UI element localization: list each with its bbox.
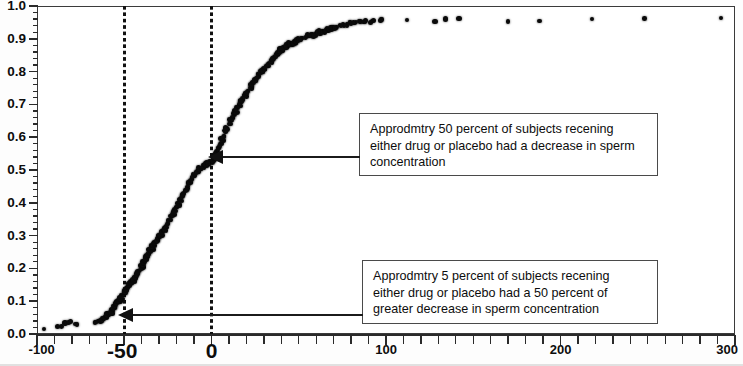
y-tick-label: 0.8 [7, 65, 26, 79]
x-tick-minor [193, 335, 194, 344]
x-tick-minor [420, 335, 421, 344]
data-point [506, 19, 511, 24]
data-point [245, 90, 249, 94]
x-tick-minor [630, 335, 631, 344]
x-tick-minor [263, 335, 264, 344]
y-tick-label: 0.0 [7, 327, 26, 341]
x-tick-minor [525, 335, 526, 344]
x-tick-minor [403, 335, 404, 344]
x-tick-minor [316, 335, 317, 344]
x-tick-minor [71, 335, 72, 344]
data-point [368, 20, 373, 25]
annotation-text-50-percent-decrease: Approdmtry 50 percent of subjects receni… [370, 121, 648, 171]
y-tick-label: 0.4 [7, 196, 26, 210]
x-tick-minor [158, 335, 159, 344]
annotation-arrow-shaft-lower [132, 314, 363, 316]
data-point [590, 17, 595, 22]
x-tick-minor [595, 335, 596, 344]
x-tick-minor [141, 335, 142, 344]
annotation-text-5-percent-50-or-greater-decrease: Approdmtry 5 percent of subjects recenin… [373, 268, 648, 318]
x-tick-minor [542, 335, 543, 344]
x-tick-minor [507, 335, 508, 344]
data-point [42, 327, 46, 331]
data-point [238, 104, 243, 109]
data-point [298, 37, 303, 42]
data-point [180, 193, 185, 198]
annotation-box-5-percent-50-or-greater-decrease: Approdmtry 5 percent of subjects recenin… [362, 260, 658, 324]
y-tick-label: 0.2 [7, 261, 26, 275]
x-tick-minor [682, 335, 683, 344]
x-tick-minor [577, 335, 578, 344]
x-tick-minor [228, 335, 229, 344]
x-tick-minor [473, 335, 474, 344]
x-tick-minor [333, 335, 334, 344]
data-point [642, 16, 647, 21]
x-tick-minor [490, 335, 491, 344]
data-point [405, 18, 409, 22]
x-tick-label: -100 [29, 343, 55, 356]
x-tick-minor [699, 335, 700, 344]
x-tick-minor [350, 335, 351, 344]
annotation-arrow-head-lower [118, 308, 133, 322]
data-point [222, 134, 226, 138]
x-tick-minor [298, 335, 299, 344]
x-tick-minor [438, 335, 439, 344]
y-tick-label: 0.3 [7, 229, 26, 243]
y-tick-label: 1.0 [7, 0, 26, 13]
x-tick-minor [176, 335, 177, 344]
x-tick-minor [281, 335, 282, 344]
x-tick-minor [647, 335, 648, 344]
cdf-scatter-figure: 0.00.10.20.30.40.50.60.70.80.91.0 -100-5… [0, 0, 743, 366]
x-tick-label: 300 [716, 343, 738, 356]
x-tick-label: 0 [206, 340, 218, 361]
y-tick-label: 0.7 [7, 97, 26, 111]
x-tick-minor [368, 335, 369, 344]
x-tick-minor [612, 335, 613, 344]
x-tick-minor [665, 335, 666, 344]
data-point [432, 19, 437, 24]
data-point [443, 16, 449, 22]
data-point [537, 19, 541, 23]
y-tick-label: 0.9 [7, 32, 26, 46]
y-tick-label: 0.5 [7, 163, 26, 177]
data-point [351, 20, 356, 25]
x-tick-minor [455, 335, 456, 344]
data-point [75, 322, 80, 327]
x-tick-minor [89, 335, 90, 344]
x-tick-label: -50 [107, 340, 137, 361]
annotation-arrow-head-upper [208, 150, 223, 164]
data-point [380, 17, 385, 22]
y-tick-label: 0.1 [7, 294, 26, 308]
data-point [719, 16, 724, 21]
vline-zero [210, 6, 213, 334]
data-point [171, 209, 176, 214]
data-point [456, 16, 462, 22]
x-tick-label: 100 [375, 343, 397, 356]
x-tick-label: 200 [550, 343, 572, 356]
annotation-arrow-shaft-upper [222, 156, 360, 158]
y-tick-label: 0.6 [7, 130, 26, 144]
annotation-box-50-percent-decrease: Approdmtry 50 percent of subjects receni… [359, 113, 658, 176]
x-tick-minor [246, 335, 247, 344]
data-point [225, 127, 230, 132]
data-point [235, 110, 240, 115]
data-point [68, 319, 73, 324]
